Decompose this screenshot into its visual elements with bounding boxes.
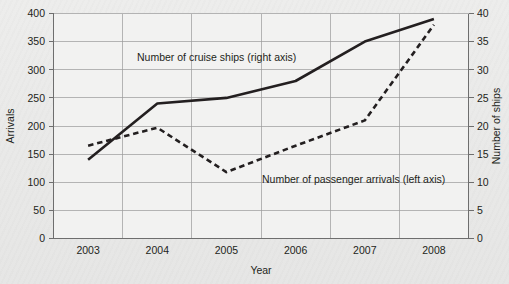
right-tick-label: 25 xyxy=(477,92,489,104)
right-tick-label: 40 xyxy=(477,7,489,19)
series-label-cruise-ships: Number of cruise ships (right axis) xyxy=(137,51,296,63)
x-tick-label: 2006 xyxy=(284,244,308,256)
left-tick-marks xyxy=(49,14,54,239)
left-axis-tick-labels: 400 350 300 250 200 150 100 50 0 xyxy=(27,7,45,244)
left-tick-label: 250 xyxy=(27,92,45,104)
left-tick-label: 350 xyxy=(27,35,45,47)
left-tick-label: 300 xyxy=(27,64,45,76)
left-tick-label: 100 xyxy=(27,176,45,188)
chart-figure: 400 350 300 250 200 150 100 50 0 40 35 3… xyxy=(0,0,509,284)
right-tick-label: 0 xyxy=(477,232,483,244)
right-tick-marks xyxy=(469,14,474,239)
right-tick-label: 10 xyxy=(477,176,489,188)
right-tick-label: 30 xyxy=(477,64,489,76)
x-tick-label: 2004 xyxy=(146,244,170,256)
right-tick-label: 20 xyxy=(477,120,489,132)
right-tick-label: 35 xyxy=(477,35,489,47)
right-tick-label: 15 xyxy=(477,148,489,160)
left-tick-label: 400 xyxy=(27,7,45,19)
right-axis-tick-labels: 40 35 30 25 20 15 10 5 0 xyxy=(477,7,489,244)
x-tick-label: 2003 xyxy=(76,244,100,256)
x-tick-label: 2008 xyxy=(422,244,446,256)
x-tick-label: 2005 xyxy=(215,244,239,256)
x-tick-label: 2007 xyxy=(353,244,377,256)
x-axis-tick-labels: 2003 2004 2005 2006 2007 2008 xyxy=(76,244,445,256)
left-tick-label: 150 xyxy=(27,148,45,160)
x-axis-title: Year xyxy=(250,264,272,276)
chart-svg: 400 350 300 250 200 150 100 50 0 40 35 3… xyxy=(0,0,509,284)
left-axis-title: Arrivals xyxy=(4,108,16,143)
right-tick-label: 5 xyxy=(477,204,483,216)
right-axis-title: Number of ships xyxy=(490,88,502,164)
left-tick-label: 0 xyxy=(39,232,45,244)
series-label-passenger-arrivals: Number of passenger arrivals (left axis) xyxy=(262,173,445,185)
left-tick-label: 200 xyxy=(27,120,45,132)
left-tick-label: 50 xyxy=(33,204,45,216)
